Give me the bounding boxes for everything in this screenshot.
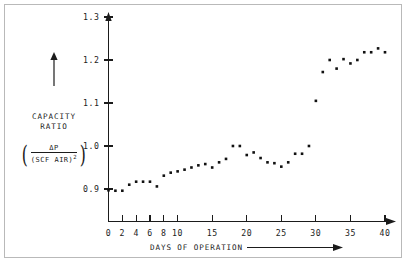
data-point (335, 67, 338, 70)
data-point (342, 58, 345, 61)
data-point (114, 189, 117, 192)
data-point (156, 185, 159, 188)
x-tick-label: 35 (345, 228, 356, 238)
data-point (211, 166, 214, 169)
y-tick-label: 0.9 (83, 184, 100, 194)
data-point (107, 189, 110, 192)
data-point (121, 189, 124, 192)
data-point (384, 51, 387, 54)
data-point (315, 100, 318, 103)
data-point (218, 161, 221, 164)
figure-container: CAPACITY RATIO ( ΔP (SCF AIR)2 ) DAYS OF… (0, 0, 406, 262)
x-tick-label: 8 (161, 228, 167, 238)
data-point (328, 59, 331, 62)
y-tick-label: 1.2 (83, 55, 100, 65)
data-point (370, 51, 373, 54)
data-point (135, 180, 138, 183)
data-point (301, 152, 304, 155)
y-tick-label: 1.3 (83, 12, 100, 22)
data-point (128, 183, 131, 186)
data-point (294, 152, 297, 155)
data-point (225, 158, 228, 161)
data-point (163, 174, 166, 177)
data-point (363, 51, 366, 54)
data-point (142, 180, 145, 183)
x-tick-label: 4 (133, 228, 139, 238)
x-tick-label: 15 (207, 228, 218, 238)
data-point (190, 166, 193, 169)
data-point (259, 157, 262, 160)
x-tick-label: 0 (106, 228, 112, 238)
data-point (321, 71, 324, 74)
y-tick-label: 1.1 (83, 98, 100, 108)
data-point (266, 161, 269, 164)
data-point (149, 180, 152, 183)
data-point (377, 47, 380, 50)
x-tick-label: 2 (120, 228, 126, 238)
data-point (252, 151, 255, 154)
x-axis-arrow-icon (386, 218, 396, 225)
x-tick-group: 0246810152025303540 (106, 215, 391, 238)
data-point (232, 145, 235, 148)
plot-area: 0.91.01.11.21.3 0246810152025303540 (0, 0, 406, 262)
x-tick-label: 6 (147, 228, 153, 238)
data-point (183, 168, 186, 171)
y-tick-label: 1.0 (83, 141, 100, 151)
x-tick-label: 20 (241, 228, 252, 238)
scatter-plot: 0.91.01.11.21.3 0246810152025303540 (0, 0, 406, 262)
data-point (308, 145, 311, 148)
data-point (287, 161, 290, 164)
data-point (176, 170, 179, 173)
axes-group (105, 12, 396, 225)
data-point (356, 59, 359, 62)
data-point (349, 62, 352, 65)
x-tick-label: 10 (172, 228, 183, 238)
data-point (169, 171, 172, 174)
data-point (239, 145, 242, 148)
data-point (204, 163, 207, 166)
data-point (197, 164, 200, 167)
data-point (273, 162, 276, 165)
x-tick-label: 30 (310, 228, 321, 238)
data-point-group (107, 47, 386, 192)
data-point (280, 165, 283, 168)
x-tick-label: 25 (276, 228, 287, 238)
data-point (245, 154, 248, 157)
x-tick-label: 40 (379, 228, 390, 238)
